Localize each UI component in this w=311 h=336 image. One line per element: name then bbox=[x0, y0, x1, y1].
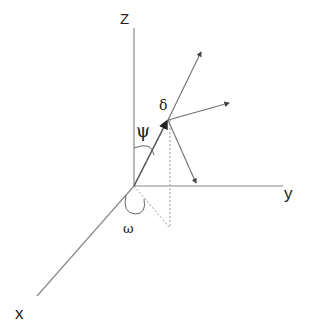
omega-arc bbox=[125, 195, 145, 214]
projection-ground bbox=[134, 186, 170, 228]
radial-extension-arrow bbox=[168, 52, 201, 120]
y-axis-label: y bbox=[284, 184, 293, 203]
x-axis-label: x bbox=[15, 304, 24, 323]
omega-label: ω bbox=[123, 221, 134, 236]
z-axis-label: Z bbox=[120, 10, 129, 27]
x-axis bbox=[37, 186, 134, 296]
psi-label: ψ bbox=[136, 120, 150, 141]
tangent-arrow-down bbox=[168, 120, 196, 183]
coordinate-diagram: Z y x ψ δ ω bbox=[0, 0, 311, 336]
delta-label: δ bbox=[159, 97, 167, 113]
tangent-arrow-right bbox=[168, 103, 229, 120]
